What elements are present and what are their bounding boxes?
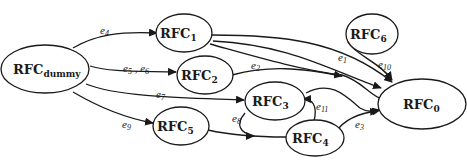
edge-label-e8: e8 (232, 112, 241, 126)
edge-dummy-to-rfc5 (73, 92, 153, 123)
edge-label-e7: e7 (156, 88, 166, 102)
edge-label-e4: e4 (100, 24, 109, 38)
node-rfc0[interactable]: RFC0 (378, 79, 466, 129)
edge-rfc3-to-rfc4 (240, 113, 254, 136)
edge-label-e9: e9 (122, 118, 131, 132)
node-rfc3[interactable]: RFC3 (245, 82, 305, 120)
node-rfc6[interactable]: RFC6 (346, 14, 398, 54)
node-rfc4[interactable]: RFC4 (286, 120, 344, 156)
edge-label-e5-e6: e5 , e6 (123, 62, 149, 76)
edge-label-e1: e1 (338, 51, 347, 65)
dependency-graph: RFCdummy RFC1 RFC2 RFC3 RFC4 RFC5 RFC6 (0, 0, 467, 164)
edge-label-e3: e3 (355, 118, 364, 132)
edge-label-e10: e10 (378, 58, 391, 72)
node-rfc1[interactable]: RFC1 (156, 14, 212, 52)
edge-label-e2: e2 (251, 59, 260, 73)
node-rfc2[interactable]: RFC2 (177, 56, 233, 94)
node-rfc-dummy[interactable]: RFCdummy (1, 45, 89, 93)
edge-label-e11: e11 (316, 100, 328, 114)
node-rfc5[interactable]: RFC5 (153, 107, 209, 145)
edge-dummy-to-rfc1 (73, 33, 157, 48)
